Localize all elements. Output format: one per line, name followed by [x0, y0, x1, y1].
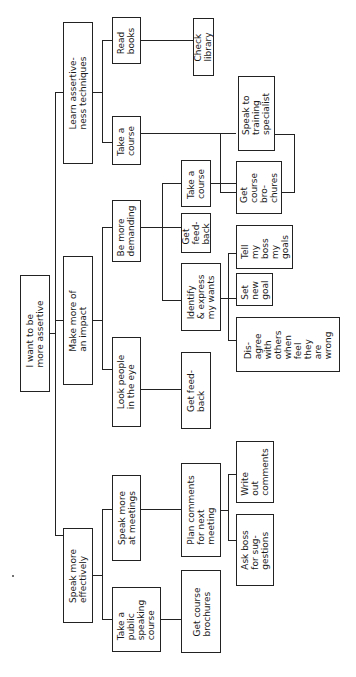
- connector: [92, 575, 102, 576]
- node-label: Make more of an impact: [68, 290, 88, 351]
- connector: [228, 540, 236, 541]
- node-get-brochures-c: Get course brochures: [181, 570, 221, 653]
- node-label: Set new goal: [240, 280, 270, 299]
- node-label: Ask boss for sug- gestions: [240, 530, 270, 570]
- connector: [220, 298, 228, 299]
- connector: [228, 340, 236, 341]
- node-speak-specialist: Speak to training specialist: [238, 76, 275, 151]
- connector: [55, 535, 63, 536]
- node-label: Get feed- back: [186, 369, 206, 411]
- connector: [294, 134, 295, 193]
- connector: [162, 183, 163, 301]
- connector: [102, 619, 112, 620]
- connector: [274, 134, 294, 135]
- node-label: I want to be more assertive: [25, 300, 45, 367]
- node-speak-meet: Speak more at meetings: [112, 475, 141, 561]
- node-look-eye: Look people in the eye: [112, 337, 141, 427]
- node-label: Plan comments for next meeting: [186, 475, 216, 544]
- node-label: Write out comments: [240, 448, 270, 495]
- connector: [55, 320, 63, 321]
- node-get-brochures-a: Get course bro- chures: [236, 161, 282, 214]
- connector: [282, 192, 294, 193]
- connector: [220, 510, 228, 511]
- connector: [102, 227, 112, 228]
- connector: [140, 40, 193, 41]
- node-tell-boss: Tell my boss my goals: [236, 225, 293, 269]
- connector: [102, 40, 103, 142]
- connector: [228, 298, 236, 299]
- node-demanding: Be more demanding: [112, 200, 141, 262]
- connector: [140, 133, 236, 134]
- connector: [102, 227, 103, 370]
- connector: [160, 619, 181, 620]
- node-label: Get course bro- chures: [239, 172, 279, 202]
- node-ask-boss: Ask boss for sug- gestions: [236, 514, 274, 586]
- node-label: Check library: [194, 33, 214, 62]
- node-label: Take a course: [186, 168, 206, 198]
- node-label: Tell my boss my goals: [240, 235, 290, 259]
- node-read-books: Read books: [112, 17, 141, 64]
- connector: [210, 183, 236, 184]
- connector: [228, 474, 236, 475]
- node-root: I want to be more assertive: [20, 275, 50, 392]
- connector: [102, 142, 112, 143]
- node-label: Speak more effectively: [68, 549, 88, 603]
- node-label: Get course brochures: [191, 587, 211, 636]
- connector: [162, 300, 181, 301]
- connector: [228, 253, 236, 254]
- connector: [102, 40, 112, 41]
- node-take-course-b: Take a course: [181, 160, 211, 207]
- connector: [220, 192, 236, 193]
- node-public-course: Take a public speaking course: [112, 587, 161, 652]
- node-label: Identify & express my wants: [186, 275, 216, 320]
- node-disagree: Dis- agree with others when feel they ar…: [236, 317, 340, 372]
- stray-mark: [12, 575, 14, 577]
- node-speak-eff: Speak more effectively: [63, 528, 93, 623]
- node-write-comments: Write out comments: [236, 441, 274, 503]
- node-label: Look people in the eye: [117, 355, 137, 409]
- node-label: Take a public speaking course: [117, 599, 157, 640]
- node-check-library: Check library: [193, 18, 214, 76]
- connector: [102, 509, 103, 620]
- connector: [140, 227, 181, 228]
- node-label: Dis- agree with others when feel they ar…: [243, 330, 333, 359]
- node-take-course-a: Take a course: [112, 116, 141, 165]
- node-label: Take a course: [117, 125, 137, 155]
- node-label: Speak more at meetings: [117, 491, 137, 545]
- connector: [140, 389, 181, 390]
- node-impact: Make more of an impact: [63, 256, 93, 385]
- connector: [228, 253, 229, 341]
- node-learn: Learn assertive- ness techniques: [63, 22, 93, 164]
- connector: [162, 183, 181, 184]
- connector: [102, 509, 112, 510]
- node-plan-comments: Plan comments for next meeting: [181, 463, 221, 557]
- connector: [55, 92, 63, 93]
- connector: [140, 509, 181, 510]
- node-get-feedback-b: Get feed- back: [181, 213, 211, 253]
- node-label: Get feed- back: [181, 221, 211, 244]
- connector: [228, 474, 229, 540]
- connector: [55, 92, 56, 536]
- node-set-goal: Set new goal: [236, 273, 273, 306]
- connector: [92, 92, 102, 93]
- node-identify: Identify & express my wants: [181, 263, 221, 331]
- node-label: Learn assertive- ness techniques: [68, 56, 88, 129]
- node-get-feedback-eye: Get feed- back: [181, 352, 211, 429]
- node-label: Read books: [116, 27, 136, 54]
- connector: [50, 333, 56, 334]
- node-label: Be more demanding: [117, 206, 137, 257]
- connector: [92, 320, 102, 321]
- node-label: Speak to training specialist: [242, 92, 272, 134]
- connector: [102, 369, 112, 370]
